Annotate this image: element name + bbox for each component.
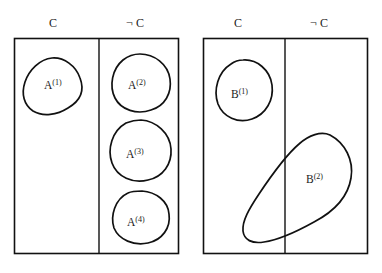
diagram-canvas: C ¬ C C ¬ C A(1) A(2) A(3) A(4): [0, 0, 382, 273]
blob-a1-label: A(1): [44, 78, 62, 92]
blob-b1-label: B(1): [231, 87, 248, 101]
blob-a2-label: A(2): [128, 78, 146, 92]
blob-a2-label-sup: (2): [136, 78, 146, 87]
blob-b2: [243, 133, 352, 242]
blob-b1-label-sup: (1): [239, 87, 249, 96]
panel-a-frame: [15, 39, 179, 254]
blob-a3-label-sup: (3): [134, 147, 144, 156]
blob-a4-label: A(4): [127, 215, 145, 229]
blob-b2-label: B(2): [306, 172, 323, 186]
blob-a3-label: A(3): [126, 147, 144, 161]
blob-b2-label-sup: (2): [314, 172, 324, 181]
diagram-graphics: A(1) A(2) A(3) A(4) B(1) B(2): [0, 0, 382, 273]
blob-a4-label-sup: (4): [135, 215, 145, 224]
blob-a1-label-sup: (1): [52, 78, 62, 87]
